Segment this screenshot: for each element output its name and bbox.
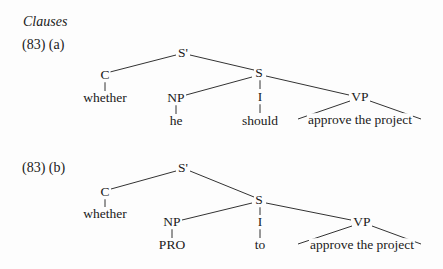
leaf-inflection: to [254,238,267,252]
node-np: NP [162,215,181,229]
node-i: I [257,215,264,229]
leaf-complementizer: whether [82,207,127,221]
node-s-bar: S' [177,161,189,175]
leaf-vp-triangle-text: approve the project [309,238,415,252]
tree-branches-b [0,0,443,269]
leaf-subject: PRO [158,238,186,252]
node-s: S [254,193,264,207]
node-vp: VP [352,215,371,229]
node-c: C [99,185,110,199]
